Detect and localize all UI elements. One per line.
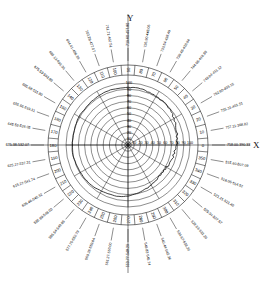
outer-sector-label: 665.68-511.90 [21, 82, 43, 97]
outer-sector-label: 744.66-419.80 [190, 50, 208, 70]
degree-tick-label: 30 [190, 104, 197, 111]
outer-sector-label: 757.11-368.82 [225, 122, 248, 130]
radial-tick-label: 10 [127, 137, 131, 141]
outer-sector-label: 758.00-390.33 [227, 143, 250, 147]
outer-sector-label: 605.46-545.32 [21, 193, 43, 208]
outer-sector-label: 739.48-428.94 [176, 38, 191, 60]
degree-tick-label: 350 [198, 155, 206, 161]
outer-sector-label: 675.53-503.89 [33, 65, 53, 83]
degree-tick-label: 180 [50, 143, 58, 148]
outer-sector-label: 525.04-527.67 [203, 207, 223, 225]
radial-tick-label-x: 10 [132, 141, 136, 145]
outer-sector-label: 534.67-538.20 [176, 230, 191, 252]
degree-tick-label: 90 [126, 67, 131, 72]
degree-tick-label: 80 [138, 68, 144, 74]
radial-tick-label: 80 [127, 94, 131, 98]
degree-tick-label: 240 [87, 205, 95, 214]
radial-tick-label-x: 20 [138, 141, 142, 145]
outer-sector-label: 685.13-495.36 [48, 50, 66, 70]
radial-tick-label-x: 90 [182, 141, 186, 145]
degree-tick-label: 10 [199, 129, 205, 135]
outer-sector-label: 711.71-467.51 [105, 25, 113, 48]
radial-tick-label: 50 [127, 112, 131, 116]
radial-tick-label: 60 [127, 106, 131, 110]
outer-sector-label: 586.64-549.86 [48, 220, 66, 240]
degree-tick-label: 40 [182, 93, 189, 100]
degree-tick-label: 260 [112, 214, 118, 222]
degree-tick-label: 50 [173, 84, 180, 91]
degree-tick-label: 20 [195, 116, 202, 123]
degree-tick-label: 150 [59, 104, 68, 112]
degree-tick-label: 110 [99, 71, 106, 80]
radial-tick-label-x: 30 [145, 141, 149, 145]
degree-tick-label: 340 [194, 167, 203, 174]
x-axis-label: X [253, 140, 260, 150]
radial-tick-label-x: 40 [151, 141, 155, 145]
degree-tick-label: 210 [59, 178, 68, 186]
degree-tick-label: 170 [50, 129, 58, 135]
outer-sector-label: 655.66-519.31 [12, 101, 35, 113]
radial-tick-label-x: 50 [157, 141, 161, 145]
polar-diagram-figure: 0102030405060708090100110120130140150160… [0, 0, 272, 288]
degree-tick-label: 280 [138, 215, 144, 223]
degree-tick-label: 200 [53, 167, 62, 174]
outer-sector-label: 515.60-507.09 [225, 160, 249, 168]
outer-sector-label: 749.04-411.12 [203, 65, 223, 83]
outer-sector-label: 577.75-550.79 [65, 230, 80, 252]
radial-tick-label-x: 70 [169, 141, 173, 145]
outer-sector-label: 625.27-537.31 [7, 160, 31, 168]
outer-sector-label: 561.27-550.00 [105, 242, 113, 266]
data-series [72, 87, 178, 196]
outer-sector-label: 529.53-533.29 [190, 220, 208, 240]
outer-sector-label: 521.21-521.40 [213, 193, 235, 208]
polar-plot-canvas: 0102030405060708090100110120130140150160… [0, 0, 272, 288]
radial-tick-label: 20 [127, 131, 131, 135]
radial-tick-label-x: 60 [163, 141, 167, 145]
radial-tick-label: 90 [127, 88, 131, 92]
outer-sector-label: 752.60-403.15 [213, 82, 235, 97]
outer-sector-label: 635.38-532.07 [6, 143, 29, 147]
outer-sector-label: 703.29-477.07 [84, 29, 96, 52]
degree-tick-label: 60 [162, 76, 169, 83]
outer-sector-label: 694.41-486.39 [65, 38, 80, 60]
radial-tick-label-x: 80 [176, 141, 180, 145]
degree-tick-label: 190 [50, 155, 58, 161]
degree-tick-label: 300 [162, 206, 170, 215]
radial-tick-label: 70 [127, 100, 131, 104]
data-curve [72, 87, 178, 196]
degree-tick-label: 250 [99, 211, 106, 220]
outer-sector-label: 755.31-401.51 [220, 101, 243, 113]
degree-tick-label: 120 [87, 76, 95, 85]
outer-sector-label: 719.60-457.80 [126, 23, 130, 46]
degree-tick-label: 270 [126, 216, 131, 224]
outer-sector-label: 615.27-541.74 [12, 177, 35, 189]
angular-spokes [10, 14, 250, 273]
radial-tick-label-x: 100 [187, 141, 193, 145]
outer-sector-label: 546.82-545.74 [143, 242, 151, 266]
degree-tick-label: 330 [189, 179, 198, 187]
outer-sector-label: 518.06-514.52 [220, 177, 243, 189]
degree-tick-label: 70 [151, 71, 158, 78]
outer-sector-label: 733.54-438.40 [160, 29, 172, 52]
outer-sector-label: 595.89-548.03 [33, 207, 53, 225]
outer-sector-label: 540.44-542.36 [160, 237, 172, 260]
outer-sector-label: 569.28-550.84 [84, 237, 96, 260]
degree-tick-label: 290 [150, 211, 157, 220]
y-axis-label: Y [127, 13, 134, 23]
radial-tick-label: 40 [127, 119, 131, 123]
outer-sector-label: 553.77-548.29 [126, 244, 130, 267]
outer-sector-label: 726.90-448.06 [143, 24, 151, 48]
outer-sector-label: 645.53-526.05 [7, 122, 31, 130]
degree-tick-label: 160 [53, 116, 62, 123]
radial-tick-label: 100 [126, 81, 132, 85]
degree-tick-label: 100 [112, 67, 118, 75]
radial-tick-label: 30 [127, 125, 131, 129]
